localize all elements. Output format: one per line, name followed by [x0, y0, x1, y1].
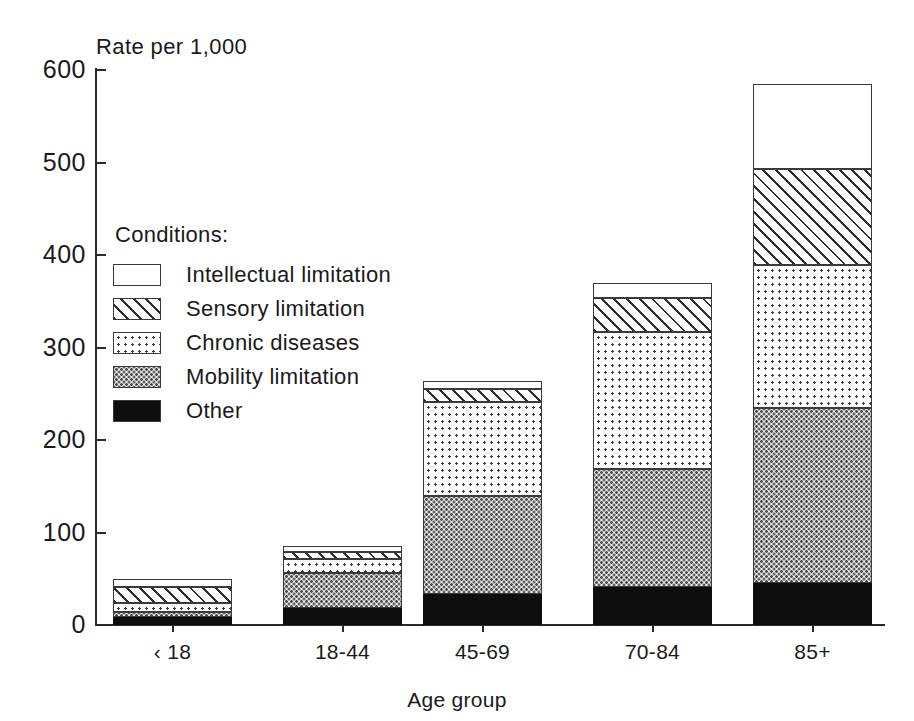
- chart-figure: Rate per 1,000 0100200300400500600 ‹ 181…: [0, 0, 914, 721]
- legend-title: Conditions:: [115, 222, 391, 248]
- y-axis-tick-label: 600: [12, 57, 86, 82]
- bar-segment: [753, 583, 872, 625]
- bar-segment: [753, 169, 872, 265]
- bar-segment: [593, 332, 712, 469]
- bar-segment: [753, 84, 872, 169]
- bar-segment: [283, 546, 402, 552]
- bar-segment: [423, 594, 542, 625]
- legend-item-label: Other: [186, 398, 243, 424]
- y-axis-tick: [95, 69, 106, 71]
- legend-item-label: Sensory limitation: [186, 296, 365, 322]
- bar-segment: [753, 408, 872, 584]
- bar-segment: [283, 573, 402, 608]
- y-axis-tick: [95, 624, 106, 626]
- stacked-bar: [753, 0, 872, 625]
- y-axis-tick: [95, 254, 106, 256]
- legend-item: Other: [113, 394, 391, 428]
- y-axis-tick-label: 200: [12, 427, 86, 452]
- x-axis-tick: [172, 624, 174, 632]
- y-axis-tick: [95, 532, 106, 534]
- y-axis-tick-label: 300: [12, 335, 86, 360]
- y-axis-tick: [95, 162, 106, 164]
- y-axis-tick-label: 400: [12, 242, 86, 267]
- bar-segment: [593, 283, 712, 299]
- legend-swatch: [113, 332, 161, 354]
- bar-segment: [283, 608, 402, 625]
- bar-segment: [753, 265, 872, 407]
- legend-swatch: [113, 264, 161, 286]
- bar-segment: [283, 552, 402, 559]
- y-axis-tick: [95, 439, 106, 441]
- bar-segment: [423, 402, 542, 496]
- x-axis-tick-label: 85+: [728, 640, 897, 664]
- legend-swatch: [113, 400, 161, 422]
- bar-segment: [113, 603, 232, 612]
- legend: Conditions: Intellectual limitationSenso…: [113, 222, 391, 428]
- x-axis-tick: [342, 624, 344, 632]
- legend-item-label: Mobility limitation: [186, 364, 359, 390]
- legend-swatch: [113, 298, 161, 320]
- bar-segment: [113, 612, 232, 617]
- legend-item-label: Chronic diseases: [186, 330, 360, 356]
- bar-segment: [113, 579, 232, 587]
- y-axis-tick: [95, 347, 106, 349]
- x-axis-title: Age group: [0, 688, 914, 712]
- bar-segment: [423, 496, 542, 593]
- x-axis-tick-label: ‹ 18: [88, 640, 257, 664]
- bar-segment: [423, 389, 542, 402]
- legend-item: Mobility limitation: [113, 360, 391, 394]
- legend-item: Sensory limitation: [113, 292, 391, 326]
- x-axis-tick-label: 70-84: [568, 640, 737, 664]
- x-axis-tick-label: 45-69: [398, 640, 567, 664]
- x-axis-tick: [482, 624, 484, 632]
- y-axis-tick-label: 0: [12, 612, 86, 637]
- x-axis-tick: [652, 624, 654, 632]
- bar-segment: [423, 381, 542, 389]
- y-axis-tick-label: 100: [12, 520, 86, 545]
- bar-segment: [593, 469, 712, 587]
- bar-segment: [283, 559, 402, 573]
- legend-item: Chronic diseases: [113, 326, 391, 360]
- legend-items: Intellectual limitationSensory limitatio…: [113, 258, 391, 428]
- legend-item-label: Intellectual limitation: [186, 262, 391, 288]
- bar-segment: [593, 298, 712, 331]
- legend-swatch: [113, 366, 161, 388]
- stacked-bar: [593, 0, 712, 625]
- bar-segment: [593, 587, 712, 625]
- stacked-bar: [423, 0, 542, 625]
- bar-segment: [113, 617, 232, 625]
- legend-item: Intellectual limitation: [113, 258, 391, 292]
- bar-segment: [113, 587, 232, 603]
- y-axis-tick-label: 500: [12, 150, 86, 175]
- x-axis-tick: [812, 624, 814, 632]
